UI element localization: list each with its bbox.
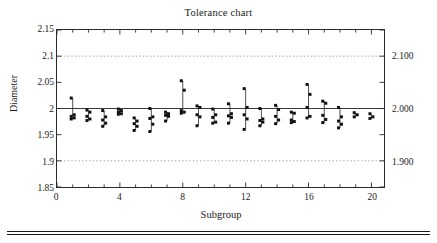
data-point-marker — [183, 111, 186, 114]
x-axis-tick-labels: 048121620 — [0, 192, 437, 208]
data-point-marker — [290, 121, 293, 124]
data-point-marker — [337, 106, 340, 109]
y-tick-label-left: 1.9 — [6, 157, 54, 167]
data-point-marker — [246, 106, 249, 109]
data-point-marker — [70, 115, 73, 118]
data-point-marker — [306, 83, 309, 86]
data-point-marker — [198, 115, 201, 118]
data-point-marker — [337, 120, 340, 123]
x-tick-label: 4 — [117, 192, 122, 202]
data-point-marker — [214, 121, 217, 124]
data-point-marker — [151, 123, 154, 126]
page-divider-rule-thin — [7, 234, 430, 235]
data-point-marker — [340, 115, 343, 118]
data-point-marker — [133, 116, 136, 119]
data-point-marker — [101, 125, 104, 128]
data-point-marker — [196, 124, 199, 127]
x-tick-label: 12 — [241, 192, 251, 202]
data-point-marker — [101, 109, 104, 112]
data-point-marker — [183, 89, 186, 92]
data-point-marker — [101, 119, 104, 122]
y-tick-label-right: 2.000 — [392, 104, 413, 114]
data-point-marker — [290, 119, 293, 122]
data-point-marker — [73, 116, 76, 119]
data-point-marker — [306, 106, 309, 109]
plot-area — [56, 29, 385, 188]
y-tick-label-left: 2.1 — [6, 51, 54, 61]
data-point-marker — [324, 118, 327, 121]
data-point-marker — [88, 117, 91, 120]
data-point-marker — [73, 113, 76, 116]
data-point-marker — [368, 112, 371, 115]
data-point-marker — [211, 122, 214, 125]
data-point-marker — [277, 108, 280, 111]
data-point-marker — [196, 104, 199, 107]
data-point-marker — [133, 122, 136, 125]
data-point-marker — [214, 113, 217, 116]
data-point-marker — [85, 109, 88, 112]
tolerance-chart-figure: Tolerance chart Diameter 1.851.91.9522.0… — [0, 0, 437, 243]
data-point-marker — [133, 129, 136, 132]
data-point-marker — [261, 117, 264, 120]
y-tick-label-left: 2.15 — [6, 24, 54, 34]
data-point-marker — [180, 79, 183, 82]
data-point-marker — [148, 107, 151, 110]
data-point-marker — [167, 112, 170, 115]
data-point-marker — [353, 111, 356, 114]
data-point-marker — [293, 120, 296, 123]
data-point-marker — [70, 97, 73, 100]
data-point-marker — [180, 109, 183, 112]
data-point-marker — [148, 117, 151, 120]
data-point-marker — [274, 122, 277, 125]
data-point-marker — [321, 100, 324, 103]
page-divider-rule — [7, 231, 430, 232]
data-point-marker — [258, 107, 261, 110]
data-point-marker — [340, 123, 343, 126]
y-tick-label-left: 1.95 — [6, 130, 54, 140]
data-point-marker — [227, 102, 230, 105]
data-point-marker — [230, 112, 233, 115]
x-tick-label: 16 — [304, 192, 314, 202]
data-point-marker — [164, 114, 167, 117]
data-point-marker — [246, 117, 249, 120]
data-point-marker — [85, 115, 88, 118]
data-point-marker — [277, 119, 280, 122]
data-point-marker — [196, 113, 199, 116]
data-point-marker — [293, 112, 296, 115]
data-point-marker — [104, 122, 107, 125]
y-tick-label-right: 1.900 — [392, 157, 413, 167]
data-point-marker — [211, 116, 214, 119]
data-point-marker — [324, 102, 327, 105]
data-point-marker — [164, 111, 167, 114]
data-point-marker — [356, 113, 359, 116]
data-point-marker — [88, 111, 91, 114]
data-point-marker — [148, 130, 151, 133]
data-point-marker — [306, 116, 309, 119]
plot-canvas — [57, 30, 384, 187]
x-tick-label: 8 — [180, 192, 185, 202]
data-point-marker — [198, 106, 201, 109]
data-point-marker — [353, 115, 356, 118]
chart-title: Tolerance chart — [0, 7, 437, 18]
data-point-marker — [258, 119, 261, 122]
data-point-marker — [243, 113, 246, 116]
data-point-marker — [117, 113, 120, 116]
y-tick-label-left: 2 — [6, 104, 54, 114]
data-point-marker — [151, 115, 154, 118]
data-point-marker — [321, 121, 324, 124]
data-point-marker — [136, 120, 139, 123]
data-point-marker — [371, 115, 374, 118]
y-tick-label-right: 2.100 — [392, 51, 413, 61]
data-point-marker — [70, 117, 73, 120]
x-tick-label: 0 — [54, 192, 59, 202]
data-point-marker — [180, 112, 183, 115]
data-point-marker — [290, 111, 293, 114]
data-point-marker — [120, 112, 123, 115]
data-point-marker — [167, 115, 170, 118]
data-point-marker — [227, 122, 230, 125]
data-point-marker — [274, 104, 277, 107]
data-point-marker — [85, 119, 88, 122]
data-point-marker — [136, 125, 139, 128]
data-point-marker — [321, 114, 324, 117]
data-point-marker — [104, 115, 107, 118]
